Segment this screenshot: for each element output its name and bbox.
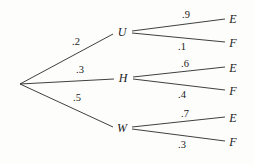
probability-label-h-e: .6 — [181, 59, 189, 70]
stage2-branch-group — [132, 19, 225, 141]
node-label-u: U — [118, 26, 127, 38]
branch-root-to-h — [20, 79, 114, 84]
node-label-h-e: E — [229, 62, 236, 74]
branch-u-to-e — [132, 19, 225, 31]
branch-h-to-e — [133, 67, 225, 77]
node-label-h: H — [119, 72, 128, 84]
probability-label-u-f: .1 — [178, 42, 186, 53]
probability-label-w-e: .7 — [181, 109, 189, 120]
node-label-u-f: F — [229, 37, 236, 49]
probability-tree-diagram: U H W .2 .3 .5 E F E F E F .9 .1 .6 .4 .… — [0, 0, 254, 164]
node-label-w-e: E — [229, 112, 236, 124]
probability-label-w-f: .3 — [178, 140, 186, 151]
branch-root-to-w — [20, 84, 113, 127]
probability-label-root-h: .3 — [76, 65, 84, 76]
stage1-branch-group — [20, 34, 114, 127]
probability-label-u-e: .9 — [182, 10, 190, 21]
branch-root-to-u — [20, 34, 113, 84]
probability-label-root-w: .5 — [73, 93, 81, 104]
probability-label-root-u: .2 — [72, 37, 80, 48]
node-label-h-f: F — [229, 85, 236, 97]
node-label-w-f: F — [229, 136, 236, 148]
probability-label-h-f: .4 — [178, 90, 186, 101]
node-label-w: W — [117, 122, 127, 134]
branch-w-to-e — [132, 117, 225, 127]
node-label-u-e: E — [229, 13, 236, 25]
